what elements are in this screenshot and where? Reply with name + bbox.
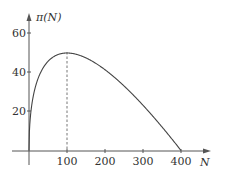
y-tick-label-20: 20 — [12, 105, 26, 118]
y-axis-arrow-icon — [27, 13, 32, 21]
chart: 60 40 20 100 200 300 400 π(N) N — [0, 0, 228, 178]
x-tick-label-400: 400 — [171, 155, 192, 168]
x-tick-label-300: 300 — [133, 155, 154, 168]
y-tick-label-40: 40 — [12, 66, 26, 79]
y-tick-label-60: 60 — [12, 27, 26, 40]
x-tick-label-200: 200 — [95, 155, 116, 168]
y-axis-label: π(N) — [35, 11, 61, 24]
profit-curve — [29, 53, 181, 151]
x-axis-label: N — [199, 156, 210, 169]
x-tick-label-100: 100 — [57, 155, 78, 168]
x-axis-arrow-icon — [203, 149, 211, 154]
